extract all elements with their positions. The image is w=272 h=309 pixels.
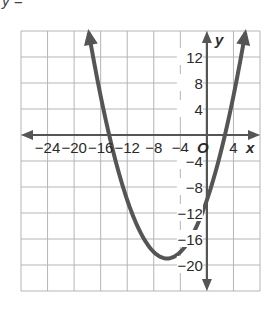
- x-tick-label: −16: [88, 139, 113, 156]
- y-axis-down-arrow-icon: [202, 279, 212, 291]
- x-tick-label: −24: [35, 139, 60, 156]
- parabola-graph: −24−20−16−12−8−441284−4−8−12−16−20Oxy: [0, 0, 272, 309]
- x-tick-label: −12: [114, 139, 139, 156]
- curve-arrow-icon: [236, 29, 250, 46]
- x-tick-label: −20: [61, 139, 86, 156]
- y-tick-label: 8: [195, 75, 203, 92]
- x-axis-label: x: [245, 139, 255, 156]
- x-tick-label: 4: [229, 139, 237, 156]
- y-tick-label: 4: [195, 101, 203, 118]
- grid: [21, 31, 260, 291]
- x-axis-left-arrow-icon: [21, 130, 33, 140]
- y-tick-label: −16: [177, 231, 202, 248]
- y-tick-label: −8: [186, 179, 203, 196]
- curve-arrow-icon: [84, 29, 98, 46]
- y-tick-label: 12: [186, 49, 203, 66]
- y-axis-label: y: [214, 31, 224, 48]
- y-axis-up-arrow-icon: [202, 31, 212, 43]
- y-tick-label: −12: [177, 205, 202, 222]
- y-tick-label: −20: [177, 257, 202, 274]
- x-tick-label: −8: [145, 139, 162, 156]
- origin-label: O: [197, 139, 209, 156]
